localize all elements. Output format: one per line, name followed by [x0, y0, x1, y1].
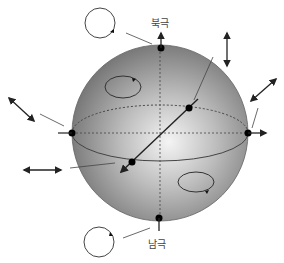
circular-polarization-top [85, 8, 115, 38]
circular-polarization-bottom [84, 227, 114, 257]
pointer-right [252, 108, 258, 128]
pointer-left-upper [40, 114, 64, 126]
sphere-polarization-diagram [0, 0, 284, 263]
pointer-top [126, 33, 152, 44]
double-arrow-diagonal-left [9, 98, 34, 121]
north-pole-label: 북극 [151, 15, 169, 30]
circle-arrow-top-icon [110, 29, 114, 33]
axis-dot-upper [186, 105, 193, 112]
axis-dot-lower [129, 159, 136, 166]
double-arrow-diagonal-right [251, 79, 276, 101]
pointer-bottom [123, 228, 150, 238]
south-pole-label: 남극 [148, 236, 166, 251]
